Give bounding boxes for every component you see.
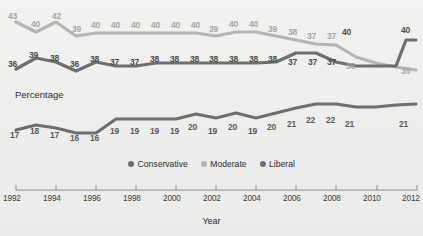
data-label-liberal-10: 19	[208, 127, 217, 136]
chart-container: Percentage 43404239404040404040394040393…	[0, 0, 423, 236]
legend-label: Moderate	[210, 159, 246, 169]
data-label-moderate-11: 40	[229, 20, 238, 29]
legend-dot-icon-liberal	[260, 161, 266, 167]
data-label-liberal-16: 22	[326, 116, 335, 125]
data-label-conservative-8: 38	[170, 55, 179, 64]
data-label-conservative-18: 40	[401, 26, 410, 35]
data-label-liberal-15: 22	[306, 116, 315, 125]
x-tick-label-3: 1998	[123, 194, 141, 203]
data-label-moderate-17: 36	[346, 62, 355, 71]
data-label-conservative-12: 38	[249, 55, 258, 64]
data-label-liberal-14: 21	[287, 120, 296, 129]
data-label-conservative-15: 37	[308, 58, 317, 67]
x-axis	[16, 185, 417, 190]
data-label-moderate-0: 43	[8, 12, 17, 21]
x-tick-label-7: 2006	[283, 194, 301, 203]
data-label-moderate-9: 40	[191, 21, 200, 30]
data-label-liberal-8: 19	[170, 127, 179, 136]
data-label-conservative-2: 38	[50, 54, 59, 63]
x-tick-label-8: 2008	[323, 194, 341, 203]
data-label-liberal-0: 17	[10, 131, 19, 140]
data-label-conservative-17: 40	[342, 28, 351, 37]
data-label-conservative-11: 38	[229, 55, 238, 64]
data-label-conservative-9: 38	[190, 55, 199, 64]
data-label-moderate-7: 40	[151, 21, 160, 30]
data-label-liberal-9: 20	[188, 123, 197, 132]
data-label-conservative-5: 37	[110, 58, 119, 67]
x-tick-label-2: 1996	[83, 194, 101, 203]
data-label-liberal-11: 20	[228, 123, 237, 132]
data-label-conservative-14: 37	[288, 58, 297, 67]
x-tick-label-4: 2000	[163, 194, 181, 203]
data-label-moderate-4: 40	[91, 21, 100, 30]
data-label-moderate-15: 37	[307, 32, 316, 41]
data-label-conservative-16: 37	[327, 58, 336, 67]
data-label-liberal-4: 16	[90, 134, 99, 143]
legend-dot-icon-conservative	[128, 161, 134, 167]
y-axis-label: Percentage	[15, 89, 64, 100]
data-label-moderate-8: 40	[171, 21, 180, 30]
data-label-conservative-7: 38	[150, 55, 159, 64]
data-label-moderate-13: 39	[268, 25, 277, 34]
data-label-moderate-16: 37	[327, 32, 336, 41]
data-label-conservative-10: 38	[209, 55, 218, 64]
x-tick-label-1: 1994	[43, 194, 61, 203]
x-tick-label-10: 2012	[402, 194, 420, 203]
data-label-liberal-1: 18	[30, 127, 39, 136]
data-label-conservative-6: 37	[130, 58, 139, 67]
legend-item-moderate[interactable]: Moderate	[201, 159, 247, 169]
data-label-liberal-5: 19	[110, 127, 119, 136]
data-label-moderate-18: 35	[401, 67, 410, 76]
data-label-conservative-0: 36	[8, 60, 17, 69]
legend-label: Conservative	[138, 159, 188, 169]
data-label-conservative-3: 36	[70, 60, 79, 69]
x-tick-label-6: 2004	[243, 194, 261, 203]
data-label-moderate-3: 39	[72, 25, 81, 34]
data-label-liberal-12: 19	[248, 127, 257, 136]
legend-item-conservative[interactable]: Conservative	[128, 159, 188, 169]
x-tick-label-5: 2002	[203, 194, 221, 203]
data-label-liberal-18: 21	[399, 120, 408, 129]
data-label-liberal-3: 16	[70, 134, 79, 143]
x-tick-label-9: 2010	[363, 194, 381, 203]
data-label-liberal-6: 19	[130, 127, 139, 136]
data-label-moderate-1: 40	[31, 20, 40, 29]
data-label-moderate-10: 39	[209, 25, 218, 34]
legend-item-liberal[interactable]: Liberal	[260, 159, 295, 169]
data-label-moderate-5: 40	[111, 21, 120, 30]
data-label-moderate-14: 38	[288, 28, 297, 37]
x-tick-label-0: 1992	[3, 194, 21, 203]
data-label-liberal-7: 19	[150, 127, 159, 136]
legend-dot-icon-moderate	[201, 161, 207, 167]
data-label-liberal-13: 20	[267, 123, 276, 132]
legend-label: Liberal	[269, 159, 295, 169]
data-label-moderate-6: 40	[131, 21, 140, 30]
x-axis-label: Year	[0, 216, 423, 226]
chart-legend: ConservativeModerateLiberal	[0, 159, 423, 169]
data-label-moderate-2: 42	[52, 12, 61, 21]
data-label-moderate-12: 40	[249, 20, 258, 29]
data-label-conservative-13: 38	[268, 55, 277, 64]
data-label-liberal-2: 17	[50, 131, 59, 140]
data-label-conservative-1: 39	[29, 51, 38, 60]
data-label-liberal-17: 21	[345, 120, 354, 129]
data-label-conservative-4: 38	[90, 55, 99, 64]
